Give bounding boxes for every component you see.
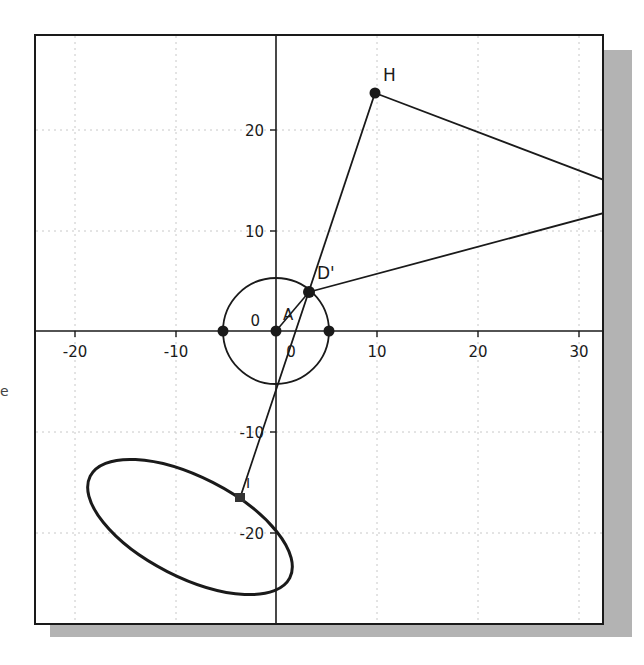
x-tick-label: 20: [468, 343, 487, 361]
y-tick-label: 10: [245, 223, 264, 241]
label-i: I: [246, 475, 250, 491]
x-tick-label: -20: [63, 343, 88, 361]
segment-h-right[interactable]: [375, 93, 602, 180]
point-circle-left[interactable]: [218, 326, 229, 337]
y-tick-label: 0: [250, 312, 260, 330]
x-tick-label: 10: [367, 343, 386, 361]
point-d-prime[interactable]: [303, 286, 315, 298]
label-h: H: [383, 65, 396, 85]
grid-lines: [36, 36, 602, 623]
point-circle-right[interactable]: [324, 326, 335, 337]
label-a: A: [283, 306, 294, 324]
point-i[interactable]: [235, 493, 245, 502]
x-tick-label: 30: [569, 343, 588, 361]
x-tick-label: -10: [164, 343, 189, 361]
y-tick-label: -20: [240, 525, 265, 543]
point-origin-a[interactable]: [271, 326, 282, 337]
segment-dprime-right[interactable]: [309, 213, 602, 292]
geometry-plot: -20 -10 0 10 20 30 20 10 0 -10 -20 H D': [36, 36, 602, 623]
point-h[interactable]: [370, 88, 381, 99]
y-tick-label: 20: [245, 122, 264, 140]
cropped-text-fragment: e: [0, 383, 9, 399]
label-d-prime: D': [317, 263, 335, 283]
geometry-canvas[interactable]: -20 -10 0 10 20 30 20 10 0 -10 -20 H D': [34, 34, 604, 625]
